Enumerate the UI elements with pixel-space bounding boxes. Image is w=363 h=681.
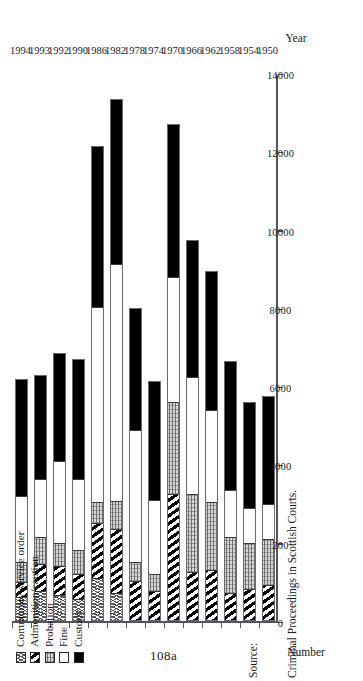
value-tick-label: 4000 bbox=[275, 456, 286, 478]
legend-item-3[interactable]: Fine bbox=[58, 532, 71, 663]
segment-probation-1982[interactable] bbox=[111, 501, 122, 528]
segment-cso-1982[interactable] bbox=[111, 593, 122, 620]
category-label-text: 1982 bbox=[105, 45, 126, 56]
value-axis-title: Number bbox=[300, 633, 312, 671]
segment-custody-1992[interactable] bbox=[54, 354, 65, 461]
legend-label-2: Probation bbox=[44, 603, 55, 647]
legend-swatch-1 bbox=[30, 652, 40, 663]
bar-1974[interactable] bbox=[148, 381, 161, 622]
segment-custody-1993[interactable] bbox=[35, 376, 46, 479]
segment-admonition-1978[interactable] bbox=[130, 582, 141, 621]
segment-fine-1993[interactable] bbox=[35, 479, 46, 537]
category-label-text: 1962 bbox=[200, 45, 221, 56]
segment-fine-1950[interactable] bbox=[263, 504, 274, 539]
category-label-text: 1992 bbox=[48, 45, 69, 56]
legend-item-4[interactable]: Custody bbox=[72, 532, 85, 663]
segment-custody-1990[interactable] bbox=[73, 360, 84, 478]
category-label-1958: 1958 bbox=[224, 40, 235, 61]
segment-probation-1978[interactable] bbox=[130, 562, 141, 581]
category-label-1966: 1966 bbox=[186, 40, 197, 61]
bar-1982[interactable] bbox=[110, 99, 123, 622]
segment-custody-1982[interactable] bbox=[111, 100, 122, 264]
segment-custody-1974[interactable] bbox=[149, 382, 160, 500]
segment-custody-1970[interactable] bbox=[168, 125, 179, 277]
segment-cso-1986[interactable] bbox=[92, 578, 103, 621]
value-tick-label-text: 0 bbox=[278, 618, 283, 629]
category-label-1974: 1974 bbox=[148, 40, 159, 61]
category-label-1970: 1970 bbox=[167, 40, 178, 61]
segment-custody-1986[interactable] bbox=[92, 147, 103, 307]
legend-item-1[interactable]: Admonition/caution bbox=[29, 532, 42, 663]
page-number: 108a bbox=[150, 648, 177, 664]
bar-1970[interactable] bbox=[167, 124, 180, 621]
bar-1966[interactable] bbox=[186, 240, 199, 622]
segment-probation-1958[interactable] bbox=[225, 537, 236, 593]
segment-fine-1954[interactable] bbox=[244, 508, 255, 543]
value-tick-label: 10000 bbox=[275, 218, 286, 245]
value-tick-label-text: 10000 bbox=[267, 226, 294, 237]
category-tick bbox=[107, 623, 108, 628]
segment-custody-1994[interactable] bbox=[16, 380, 27, 496]
category-label-text: 1966 bbox=[181, 45, 202, 56]
category-tick bbox=[126, 623, 127, 628]
segment-custody-1950[interactable] bbox=[263, 397, 274, 504]
segment-admonition-1962[interactable] bbox=[206, 570, 217, 621]
value-tick-label-text: 6000 bbox=[270, 383, 292, 394]
bar-1978[interactable] bbox=[129, 308, 142, 621]
segment-probation-1966[interactable] bbox=[187, 494, 198, 572]
bar-1958[interactable] bbox=[224, 361, 237, 621]
segment-custody-1954[interactable] bbox=[244, 403, 255, 508]
segment-custody-1962[interactable] bbox=[206, 272, 217, 410]
segment-admonition-1950[interactable] bbox=[263, 585, 274, 620]
segment-custody-1966[interactable] bbox=[187, 241, 198, 377]
value-tick-label: 6000 bbox=[275, 377, 286, 399]
legend-label-4: Custody bbox=[73, 609, 84, 647]
bar-1962[interactable] bbox=[205, 271, 218, 621]
source-label: Source: bbox=[247, 643, 259, 678]
value-tick-label-text: 12000 bbox=[267, 148, 294, 159]
rotated-chart-canvas: 0200400060008000100001200014000 19501954… bbox=[0, 0, 363, 681]
segment-fine-1992[interactable] bbox=[54, 461, 65, 543]
segment-fine-1986[interactable] bbox=[92, 307, 103, 502]
legend-swatch-0 bbox=[16, 652, 26, 663]
segment-admonition-1970[interactable] bbox=[168, 494, 179, 621]
bar-1986[interactable] bbox=[91, 146, 104, 622]
segment-fine-1966[interactable] bbox=[187, 377, 198, 494]
source-text: Criminal Proceedings in Scottish Courts. bbox=[286, 490, 298, 678]
segment-admonition-1966[interactable] bbox=[187, 572, 198, 621]
segment-probation-1962[interactable] bbox=[206, 502, 217, 570]
segment-probation-1954[interactable] bbox=[244, 543, 255, 590]
value-tick-label: 8000 bbox=[275, 299, 286, 321]
segment-probation-1970[interactable] bbox=[168, 402, 179, 494]
segment-probation-1986[interactable] bbox=[92, 502, 103, 523]
segment-fine-1970[interactable] bbox=[168, 277, 179, 402]
category-axis-title-text: Year bbox=[285, 32, 306, 44]
segment-fine-1962[interactable] bbox=[206, 410, 217, 501]
category-tick bbox=[88, 623, 89, 628]
bar-1954[interactable] bbox=[243, 402, 256, 621]
segment-fine-1982[interactable] bbox=[111, 264, 122, 502]
segment-admonition-1954[interactable] bbox=[244, 589, 255, 620]
legend-label-1: Admonition/caution bbox=[29, 556, 40, 647]
category-label-text: 1974 bbox=[143, 45, 164, 56]
legend-swatch-2 bbox=[45, 652, 55, 663]
value-tick-label-text: 14000 bbox=[267, 70, 294, 81]
segment-admonition-1986[interactable] bbox=[92, 523, 103, 578]
legend-item-0[interactable]: Community service order bbox=[14, 532, 27, 663]
segment-admonition-1958[interactable] bbox=[225, 593, 236, 620]
segment-probation-1974[interactable] bbox=[149, 574, 160, 591]
legend-item-2[interactable]: Probation bbox=[43, 532, 56, 663]
value-tick-label: 200 bbox=[275, 537, 286, 553]
category-tick bbox=[183, 623, 184, 628]
segment-fine-1958[interactable] bbox=[225, 490, 236, 537]
segment-fine-1974[interactable] bbox=[149, 500, 160, 574]
segment-custody-1978[interactable] bbox=[130, 309, 141, 430]
bar-1950[interactable] bbox=[262, 396, 275, 621]
category-label-1962: 1962 bbox=[205, 40, 216, 61]
segment-admonition-1974[interactable] bbox=[149, 591, 160, 620]
legend-label-3: Fine bbox=[58, 627, 69, 647]
category-label-text: 1990 bbox=[67, 45, 88, 56]
segment-fine-1978[interactable] bbox=[130, 430, 141, 562]
segment-custody-1958[interactable] bbox=[225, 362, 236, 490]
segment-admonition-1982[interactable] bbox=[111, 529, 122, 593]
